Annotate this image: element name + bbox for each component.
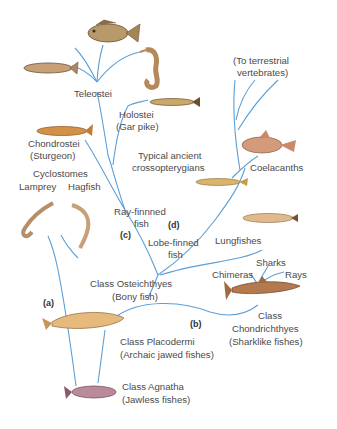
- tag-b: (b): [190, 319, 202, 329]
- label-rays: Rays: [285, 269, 307, 281]
- label-agnatha-1: Class Agnatha: [122, 381, 184, 393]
- label-lobe-finned-1: Lobe-finned: [148, 237, 199, 249]
- label-lamprey: Lamprey: [19, 181, 56, 193]
- branch-teleost-seahorse: [97, 52, 140, 82]
- label-chondrostei-sub: (Sturgeon): [30, 150, 75, 162]
- label-chondrichthyes-3: (Sharklike fishes): [229, 336, 303, 348]
- branch-terrestrial: [234, 80, 240, 170]
- label-holostei-sub: (Gar pike): [116, 121, 159, 133]
- label-typical-2: crossopterygians: [132, 162, 205, 174]
- label-sharks: Sharks: [256, 257, 286, 269]
- hagfish-illustration: [72, 205, 88, 248]
- branch-agnatha-placodermi: [98, 330, 105, 383]
- coelacanth-illustration: [242, 130, 296, 153]
- label-typical-1: Typical ancient: [138, 150, 201, 162]
- label-chimeras: Chimeras: [212, 269, 253, 281]
- sturgeon-illustration: [37, 124, 93, 136]
- placoderm-illustration: [42, 312, 124, 330]
- label-osteichthyes-2: (Bony fish): [112, 291, 158, 303]
- label-hagfish: Hagfish: [68, 181, 101, 193]
- seahorse-illustration: [140, 50, 157, 88]
- gar-pike-illustration: [150, 97, 200, 107]
- tag-c: (c): [120, 230, 131, 240]
- label-chondrichthyes-2: Chondrichthyes: [232, 323, 299, 335]
- branch-hagfish: [61, 235, 78, 258]
- label-ray-finned-1: Ray-finnned: [114, 206, 166, 218]
- label-osteichthyes-1: Class Osteichthyes: [90, 278, 172, 290]
- label-holostei: Holostei: [119, 109, 154, 121]
- label-cyclostomes: Cyclostomes: [33, 168, 88, 180]
- label-terrestrial-2: vertebrates): [237, 67, 288, 79]
- label-terrestrial-1: (To terrestrial: [233, 55, 289, 67]
- tag-a: (a): [43, 298, 54, 308]
- label-chondrichthyes-1: Class: [258, 310, 282, 322]
- label-lungfishes: Lungfishes: [215, 235, 261, 247]
- label-placodermi-1: Class Placodermi: [120, 336, 195, 348]
- crossopterygian-illustration: [196, 178, 248, 186]
- lamprey-illustration: [23, 203, 53, 236]
- branch-agnatha-lamprey: [48, 236, 76, 386]
- branch-terrestrial-2: [236, 80, 255, 120]
- trout-illustration: [24, 62, 78, 74]
- perch-illustration: [88, 20, 140, 42]
- label-ray-finned-2: fish: [134, 218, 149, 230]
- tag-d: (d): [168, 220, 180, 230]
- label-lobe-finned-2: fish: [168, 249, 183, 261]
- branch-teleost-extra: [75, 48, 97, 82]
- label-placodermi-2: (Archaic jawed fishes): [120, 349, 214, 361]
- branch-terrestrial-3: [238, 80, 278, 130]
- label-chondrostei: Chondrostei: [28, 138, 80, 150]
- label-agnatha-2: (Jawless fishes): [122, 394, 190, 406]
- lungfish-illustration: [243, 214, 298, 223]
- branch-placodermi-osteichthyes: [117, 303, 258, 316]
- label-teleostei: Teleostei: [74, 88, 112, 100]
- agnathan-illustration: [64, 386, 116, 399]
- branch-chondrostei: [85, 140, 125, 210]
- label-coelacanths: Coelacanths: [250, 162, 303, 174]
